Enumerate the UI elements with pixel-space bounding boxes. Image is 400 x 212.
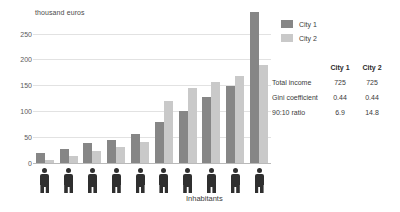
bar-city-2 <box>235 76 244 163</box>
bar-chart: thousand euros 250 200 150 100 50 0 Inha… <box>0 0 275 212</box>
bar-city-2 <box>140 142 149 163</box>
bar-city-2 <box>45 160 54 163</box>
bar-group <box>128 0 152 163</box>
table-row: Gini coefficient 0.44 0.44 <box>272 94 394 101</box>
bar-group <box>247 0 271 163</box>
table-cell-city-2: 725 <box>356 79 388 86</box>
bar-city-1 <box>155 122 164 163</box>
bars-container <box>33 0 271 163</box>
person-icon <box>156 168 172 194</box>
bar-city-2 <box>116 147 125 163</box>
table-cell-city-2: 14.8 <box>356 109 388 116</box>
table-cell-city-1: 6.9 <box>324 109 356 116</box>
table-header-row: City 1 City 2 <box>272 64 394 71</box>
bar-city-1 <box>179 111 188 163</box>
y-tick-50: 50 <box>10 134 32 141</box>
chart-legend: City 1 City 2 <box>281 20 317 48</box>
x-axis-label: Inhabitants <box>186 194 223 203</box>
chart-page: thousand euros 250 200 150 100 50 0 Inha… <box>0 0 400 212</box>
person-icon <box>85 168 101 194</box>
bar-group <box>152 0 176 163</box>
bar-city-1 <box>36 153 45 163</box>
table-row: Total income 725 725 <box>272 79 394 86</box>
summary-table: City 1 City 2 Total income 725 725 Gini … <box>272 64 394 124</box>
legend-label-city-2: City 2 <box>299 35 317 42</box>
person-icon <box>61 168 77 194</box>
table-row-label: Total income <box>272 79 324 86</box>
bar-group <box>200 0 224 163</box>
bar-group <box>81 0 105 163</box>
bar-city-1 <box>131 134 140 163</box>
bar-city-1 <box>202 97 211 163</box>
legend-swatch-icon-city-2 <box>281 34 293 42</box>
legend-label-city-1: City 1 <box>299 21 317 28</box>
table-header-city-1: City 1 <box>324 64 356 71</box>
table-header-city-2: City 2 <box>356 64 388 71</box>
person-icon <box>227 168 243 194</box>
table-cell-city-2: 0.44 <box>356 94 388 101</box>
table-row: 90:10 ratio 6.9 14.8 <box>272 109 394 116</box>
bar-city-1 <box>250 12 259 163</box>
bar-group <box>33 0 57 163</box>
bar-group <box>57 0 81 163</box>
bar-group <box>104 0 128 163</box>
bar-city-1 <box>60 149 69 163</box>
bar-group <box>176 0 200 163</box>
table-cell-city-1: 0.44 <box>324 94 356 101</box>
person-icon <box>132 168 148 194</box>
table-row-label: Gini coefficient <box>272 94 324 101</box>
bar-city-2 <box>211 82 220 164</box>
bar-city-2 <box>188 88 197 163</box>
bar-city-2 <box>92 151 101 163</box>
bar-group <box>223 0 247 163</box>
bar-city-1 <box>226 86 235 163</box>
y-tick-200: 200 <box>10 56 32 63</box>
legend-swatch-icon-city-1 <box>281 20 293 28</box>
inhabitant-pictograms <box>33 166 271 194</box>
person-icon <box>37 168 53 194</box>
person-icon <box>108 168 124 194</box>
bar-city-1 <box>107 140 116 163</box>
person-icon <box>251 168 267 194</box>
y-tick-250: 250 <box>10 31 32 38</box>
y-tick-150: 150 <box>10 82 32 89</box>
table-row-label: 90:10 ratio <box>272 109 324 116</box>
person-icon <box>204 168 220 194</box>
legend-item-city-1: City 1 <box>281 20 317 28</box>
axis-baseline <box>33 163 271 164</box>
person-icon <box>180 168 196 194</box>
y-axis-ticks: 250 200 150 100 50 0 <box>8 0 32 212</box>
bar-city-1 <box>83 143 92 163</box>
bar-city-2 <box>69 156 78 163</box>
y-tick-0: 0 <box>10 160 32 167</box>
bar-city-2 <box>259 65 268 163</box>
bar-city-2 <box>164 101 173 163</box>
table-cell-city-1: 725 <box>324 79 356 86</box>
y-tick-100: 100 <box>10 108 32 115</box>
legend-item-city-2: City 2 <box>281 34 317 42</box>
